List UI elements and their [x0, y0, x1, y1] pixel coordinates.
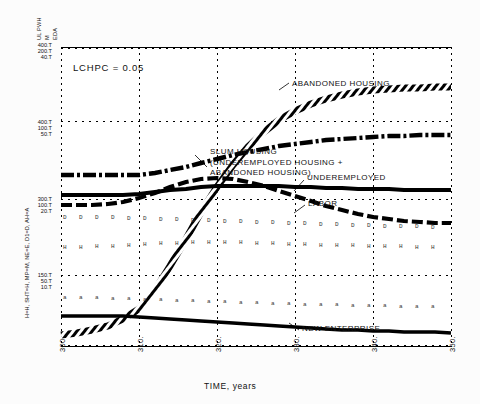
svg-text:D: D [175, 216, 179, 223]
svg-text:D: D [191, 217, 195, 224]
label-underemployed: UNDEREMPLOYED [307, 173, 386, 182]
svg-text:a: a [319, 301, 323, 308]
svg-text:H: H [319, 242, 323, 249]
ytick-group-top: 400.T 200.T 40.T [18, 42, 52, 61]
svg-text:H: H [159, 240, 163, 247]
svg-text:a: a [175, 297, 179, 304]
svg-text:D: D [431, 224, 435, 231]
svg-text:D: D [335, 221, 339, 228]
svg-text:a: a [223, 298, 227, 305]
svg-text:H: H [111, 243, 115, 250]
svg-text:D: D [303, 220, 307, 227]
svg-text:H: H [415, 244, 419, 251]
svg-text:a: a [303, 301, 307, 308]
label-abandoned-housing: ABANDONED HOUSING [292, 79, 390, 88]
svg-text:D: D [207, 217, 211, 224]
parameter-note: LCHPC = 0.05 [73, 62, 144, 73]
svg-text:D: D [367, 222, 371, 229]
svg-text:a: a [271, 300, 275, 307]
svg-text:a: a [287, 300, 291, 307]
label-new-enterprise: NEW ENTERPRISE [302, 324, 380, 333]
svg-text:a: a [95, 294, 99, 301]
label-slum-housing-line1: SLUM HOUSING [210, 147, 277, 156]
svg-text:D: D [287, 220, 291, 227]
series-layer: DDD DDD DDD DDD DDD DDD DDD DDD HHH HHH … [61, 47, 452, 347]
svg-text:H: H [239, 239, 243, 246]
xtick-330: 330. [292, 336, 301, 352]
leader-abandoned [279, 83, 289, 90]
svg-text:a: a [351, 302, 355, 309]
svg-text:a: a [239, 299, 243, 306]
svg-text:H: H [127, 242, 131, 249]
series-d1-markers: DDD DDD DDD DDD DDD DDD DDD DDD [63, 214, 435, 231]
svg-text:D: D [255, 219, 259, 226]
svg-text:H: H [207, 239, 211, 246]
ycap-m: M [44, 35, 50, 40]
series-a-markers: aaa aaa aaa aaa aaa aaa aaa aaa [63, 294, 435, 310]
svg-text:D: D [351, 222, 355, 229]
xtick-350: 350. [448, 336, 457, 352]
svg-text:H: H [223, 239, 227, 246]
label-slum-housing-line3: ABANDONED HOUSING) [210, 168, 311, 177]
svg-text:D: D [383, 223, 387, 230]
svg-text:H: H [271, 240, 275, 247]
series-h-markers: HHH HHH HHH HHH HHH HHH HHH HHH [63, 239, 435, 251]
ytick-top-3: 40.T [18, 54, 52, 60]
label-labor: LABOR [308, 199, 337, 208]
svg-text:H: H [431, 244, 435, 251]
xtick-310: 310. [136, 336, 145, 352]
svg-text:H: H [383, 243, 387, 250]
svg-text:D: D [159, 216, 163, 223]
label-slum-housing-line2: (UNDEREMPLOYED HOUSING + [210, 158, 343, 167]
svg-text:a: a [335, 301, 339, 308]
svg-text:a: a [191, 297, 195, 304]
svg-text:H: H [367, 243, 371, 250]
series-labor [61, 178, 451, 223]
svg-text:a: a [111, 295, 115, 302]
svg-text:a: a [159, 296, 163, 303]
svg-text:D: D [95, 214, 99, 221]
series-underemployed [61, 186, 451, 195]
svg-text:H: H [287, 241, 291, 248]
svg-text:H: H [143, 241, 147, 248]
svg-text:D: D [223, 218, 227, 225]
svg-text:a: a [207, 298, 211, 305]
ycap-ulpwh: UL PWH [36, 17, 42, 40]
svg-text:H: H [399, 243, 403, 250]
svg-text:H: H [95, 243, 99, 250]
svg-text:H: H [79, 244, 83, 251]
ytick-mid-3: 50.T [18, 131, 52, 137]
chart-figure: DDD DDD DDD DDD DDD DDD DDD DDD HHH HHH … [0, 0, 480, 404]
series-abandoned-housing [61, 87, 451, 335]
ycap-eda: EDA [52, 28, 58, 40]
svg-text:D: D [271, 219, 275, 226]
svg-text:a: a [367, 302, 371, 309]
svg-text:D: D [399, 223, 403, 230]
svg-text:a: a [399, 303, 403, 310]
svg-text:H: H [175, 240, 179, 247]
plot-area: DDD DDD DDD DDD DDD DDD DDD DDD HHH HHH … [61, 47, 452, 347]
svg-text:D: D [319, 221, 323, 228]
svg-text:D: D [111, 214, 115, 221]
svg-text:a: a [431, 303, 435, 310]
svg-text:H: H [351, 242, 355, 249]
svg-text:H: H [63, 244, 67, 251]
svg-text:H: H [191, 239, 195, 246]
svg-text:H: H [303, 241, 307, 248]
svg-text:H: H [335, 242, 339, 249]
svg-text:a: a [79, 294, 83, 301]
svg-text:a: a [415, 303, 419, 310]
svg-text:a: a [255, 299, 259, 306]
svg-text:D: D [63, 214, 67, 221]
xtick-340: 340. [370, 336, 379, 352]
svg-text:a: a [143, 296, 147, 303]
ytick-group-middle: 400.T 100.T 50.T [18, 119, 52, 138]
leader-labor [294, 205, 305, 213]
svg-text:H: H [255, 240, 259, 247]
xtick-320: 320. [214, 336, 223, 352]
svg-text:D: D [127, 215, 131, 222]
svg-text:D: D [143, 215, 147, 222]
svg-text:a: a [63, 294, 67, 301]
x-axis-title: TIME, years [204, 381, 256, 391]
svg-text:D: D [415, 223, 419, 230]
